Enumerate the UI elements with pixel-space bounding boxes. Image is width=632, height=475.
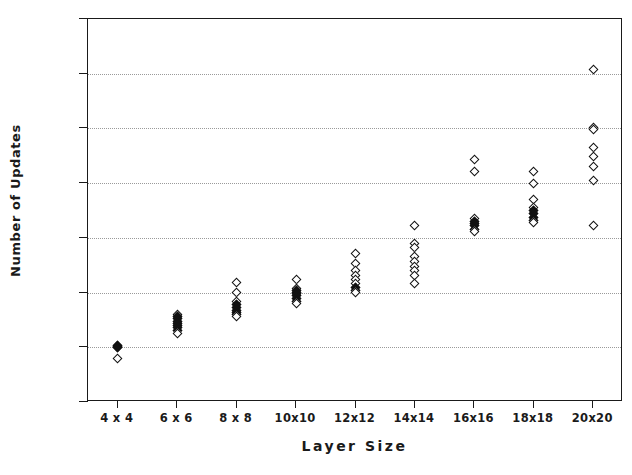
x-axis-tick-mark — [355, 401, 356, 408]
y-axis-tick-mark — [79, 73, 88, 74]
y-axis-tick-mark — [79, 127, 88, 128]
data-point-marker — [232, 278, 242, 288]
data-point-marker — [469, 166, 479, 176]
x-axis-tick-label: 20x20 — [557, 411, 627, 425]
y-axis-tick-mark — [79, 182, 88, 183]
x-axis-tick-mark — [592, 401, 593, 408]
gridline — [88, 74, 621, 75]
data-point-marker — [113, 353, 123, 363]
x-axis-tick-mark — [236, 401, 237, 408]
gridline — [88, 347, 621, 348]
data-point-marker — [529, 178, 539, 188]
gridline — [88, 183, 621, 184]
data-point-marker — [410, 279, 420, 289]
data-point-marker — [410, 221, 420, 231]
scatter-plot-figure: Number of Updates 050100150200250300350 … — [0, 0, 632, 475]
data-point-marker — [588, 176, 598, 186]
y-axis-tick-mark — [79, 237, 88, 238]
data-point-marker — [588, 162, 598, 172]
x-axis-tick-mark — [295, 401, 296, 408]
x-axis-tick-mark — [473, 401, 474, 408]
plot-area — [87, 18, 622, 401]
data-point-marker — [351, 248, 361, 258]
data-point-marker — [469, 154, 479, 164]
y-axis-title: Number of Updates — [0, 0, 30, 401]
y-axis-title-text: Number of Updates — [8, 124, 23, 277]
x-axis-tick-mark — [117, 401, 118, 408]
x-axis-tick-mark — [533, 401, 534, 408]
data-point-marker — [529, 166, 539, 176]
y-axis-tick-mark — [79, 346, 88, 347]
x-axis-tick-mark — [414, 401, 415, 408]
gridline — [88, 238, 621, 239]
x-axis-title: Layer Size — [87, 438, 622, 454]
x-axis-tick-mark — [176, 401, 177, 408]
y-axis-tick-mark — [79, 401, 88, 402]
y-axis-tick-mark — [79, 18, 88, 19]
gridline — [88, 128, 621, 129]
data-point-marker — [588, 221, 598, 231]
y-axis-tick-mark — [79, 292, 88, 293]
x-axis-title-text: Layer Size — [302, 438, 408, 454]
